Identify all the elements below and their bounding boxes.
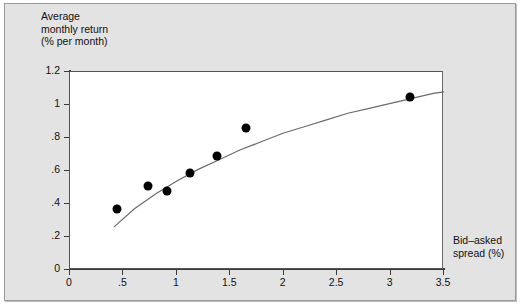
x-tick: [336, 270, 337, 275]
y-tick-label: .8: [5, 130, 60, 142]
x-tick-label: .5: [118, 276, 127, 288]
data-point: [405, 92, 414, 101]
plot-area: [69, 71, 443, 269]
y-tick-label: .6: [5, 163, 60, 175]
data-point: [242, 124, 251, 133]
x-tick-label: 0: [66, 276, 72, 288]
x-tick-label: 2: [280, 276, 286, 288]
x-tick: [176, 270, 177, 275]
y-tick-label: 0: [5, 262, 60, 274]
y-tick-label: .2: [5, 229, 60, 241]
x-tick: [229, 270, 230, 275]
scatter-points: [70, 72, 444, 270]
x-tick-label: 3: [387, 276, 393, 288]
y-tick-label: .4: [5, 196, 60, 208]
data-point: [144, 181, 153, 190]
data-point: [163, 186, 172, 195]
y-tick-label: 1: [5, 97, 60, 109]
x-axis-label: Bid–asked spread (%): [453, 234, 504, 259]
x-tick: [390, 270, 391, 275]
x-tick: [69, 270, 70, 275]
x-tick-label: 2.5: [329, 276, 344, 288]
x-tick: [122, 270, 123, 275]
x-tick-label: 1.5: [222, 276, 237, 288]
x-tick: [283, 270, 284, 275]
data-point: [213, 152, 222, 161]
data-point: [113, 204, 122, 213]
y-tick-label: 1.2: [5, 64, 60, 76]
x-tick-label: 3.5: [436, 276, 451, 288]
y-axis-label: Average monthly return (% per month): [41, 10, 108, 48]
x-tick-label: 1: [173, 276, 179, 288]
x-tick: [443, 270, 444, 275]
data-point: [185, 168, 194, 177]
figure-panel: Average monthly return (% per month) Bid…: [4, 3, 516, 301]
